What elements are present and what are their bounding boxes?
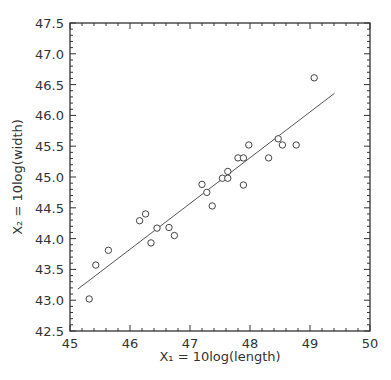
data-point-marker	[225, 168, 231, 174]
y-tick-label: 42.5	[35, 324, 64, 339]
data-point-marker	[105, 247, 111, 253]
x-axis-label: X₁ = 10log(length)	[159, 349, 280, 364]
data-point-marker	[279, 142, 285, 148]
data-point-marker	[311, 75, 317, 81]
data-point-marker	[136, 218, 142, 224]
data-point-marker	[204, 189, 210, 195]
y-tick-label: 46.0	[35, 108, 64, 123]
x-tick-label: 45	[62, 336, 79, 351]
y-tick-label: 43.5	[35, 262, 64, 277]
data-point-marker	[154, 225, 160, 231]
y-tick-label: 45.0	[35, 170, 64, 185]
data-point-marker	[166, 224, 172, 230]
data-point-marker	[86, 296, 92, 302]
x-tick-label: 46	[122, 336, 139, 351]
data-point-marker	[225, 175, 231, 181]
y-tick-label: 43.0	[35, 293, 64, 308]
y-tick-label: 46.5	[35, 78, 64, 93]
data-point-marker	[240, 155, 246, 161]
data-point-marker	[293, 142, 299, 148]
data-point-marker	[93, 262, 99, 268]
y-tick-label: 44.5	[35, 201, 64, 216]
data-point-marker	[265, 155, 271, 161]
data-point-marker	[246, 142, 252, 148]
data-point-marker	[142, 211, 148, 217]
y-tick-label: 44.0	[35, 232, 64, 247]
data-point-marker	[199, 181, 205, 187]
data-point-marker	[171, 232, 177, 238]
y-tick-label: 45.5	[35, 139, 64, 154]
data-point-marker	[148, 240, 154, 246]
y-tick-label: 47.0	[35, 47, 64, 62]
data-points	[86, 75, 317, 303]
y-tick-label: 47.5	[35, 16, 64, 31]
data-point-marker	[240, 182, 246, 188]
scatter-chart: 454647484950 42.543.043.544.044.545.045.…	[0, 0, 391, 380]
y-axis-label: X₂ = 10log(width)	[10, 119, 25, 235]
y-tick-labels: 42.543.043.544.044.545.045.546.046.547.0…	[35, 16, 64, 339]
x-tick-label: 49	[302, 336, 319, 351]
data-point-marker	[209, 203, 215, 209]
x-tick-label: 50	[362, 336, 379, 351]
data-point-marker	[275, 136, 281, 142]
